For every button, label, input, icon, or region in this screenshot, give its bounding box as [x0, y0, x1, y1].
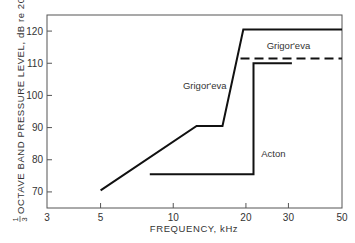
y-axis-title-text: OCTAVE BAND PRESSURE LEVEL, dB re 20 µPa: [15, 0, 26, 214]
x-axis-title: FREQUENCY, kHz: [150, 223, 238, 234]
x-tick-label: 30: [283, 212, 295, 223]
data-series: [101, 30, 342, 191]
annotation-label: Grigor'eva: [267, 40, 311, 51]
x-tick-label: 50: [336, 212, 348, 223]
x-axis-ticks: 3510203050: [44, 203, 348, 223]
annotation-label: Grigor'eva: [183, 80, 227, 91]
y-tick-label: 80: [32, 154, 44, 165]
y-tick-label: 120: [26, 26, 43, 37]
chart: 3510203050 708090100110120 Grigor'evaGri…: [0, 0, 355, 243]
annotation-label: Acton: [261, 148, 285, 159]
x-tick-label: 20: [240, 212, 252, 223]
x-tick-label: 3: [44, 212, 50, 223]
y-axis-fraction-num: 1: [11, 217, 20, 222]
y-axis-fraction-den: 3: [20, 217, 29, 222]
series-line-grigoreva-solid: [101, 30, 342, 191]
y-axis-ticks: 708090100110120: [26, 26, 52, 198]
x-tick-label: 10: [168, 212, 180, 223]
x-tick-label: 5: [98, 212, 104, 223]
y-tick-label: 100: [26, 90, 43, 101]
y-tick-label: 90: [32, 122, 44, 133]
y-tick-label: 70: [32, 186, 44, 197]
y-tick-label: 110: [27, 58, 43, 69]
